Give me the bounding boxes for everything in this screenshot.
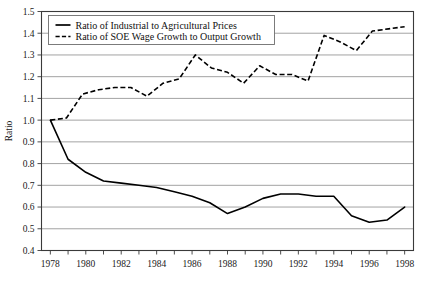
x-tick-label: 1990 <box>253 259 272 269</box>
x-axis-tick-labels: 1978198019821984198619881990199219941996… <box>41 259 415 269</box>
x-tick-label: 1980 <box>76 259 95 269</box>
x-tick-label: 1978 <box>41 259 60 269</box>
y-tick-label: 0.6 <box>23 202 35 212</box>
y-tick-label: 0.4 <box>23 246 35 256</box>
y-tick-label: 1.5 <box>23 7 35 17</box>
y-tick-label: 1.4 <box>23 29 35 39</box>
y-tick-label: 1.1 <box>23 94 35 104</box>
chart-container: 0.40.50.60.70.80.91.01.11.21.31.41.5 197… <box>0 0 432 282</box>
gridlines <box>42 33 414 229</box>
y-tick-label: 0.5 <box>23 224 35 234</box>
line-chart: 0.40.50.60.70.80.91.01.11.21.31.41.5 197… <box>0 0 432 282</box>
x-tick-label: 1996 <box>360 259 379 269</box>
y-tick-label: 0.8 <box>23 159 35 169</box>
x-tick-label: 1986 <box>183 259 202 269</box>
x-tick-label: 1982 <box>112 259 131 269</box>
chart-legend: Ratio of Industrial to Agricultural Pric… <box>49 16 275 45</box>
legend-item-label: Ratio of SOE Wage Growth to Output Growt… <box>76 31 261 42</box>
y-tick-label: 0.7 <box>23 181 35 191</box>
x-tick-label: 1988 <box>218 259 237 269</box>
x-tick-marks <box>50 251 404 255</box>
y-axis-title: Ratio <box>4 120 14 141</box>
y-tick-marks <box>38 12 42 251</box>
plot-area-frame <box>42 12 414 251</box>
x-tick-label: 1998 <box>395 259 414 269</box>
legend-item-label: Ratio of Industrial to Agricultural Pric… <box>76 20 237 31</box>
x-tick-label: 1992 <box>289 259 308 269</box>
data-series <box>50 27 404 223</box>
y-axis-tick-labels: 0.40.50.60.70.80.91.01.11.21.31.41.5 <box>23 7 35 256</box>
y-tick-label: 1.2 <box>23 72 35 82</box>
x-tick-label: 1984 <box>147 259 166 269</box>
x-tick-label: 1994 <box>324 259 343 269</box>
y-tick-label: 1.3 <box>23 50 35 60</box>
y-tick-label: 0.9 <box>23 137 35 147</box>
y-tick-label: 1.0 <box>23 116 35 126</box>
